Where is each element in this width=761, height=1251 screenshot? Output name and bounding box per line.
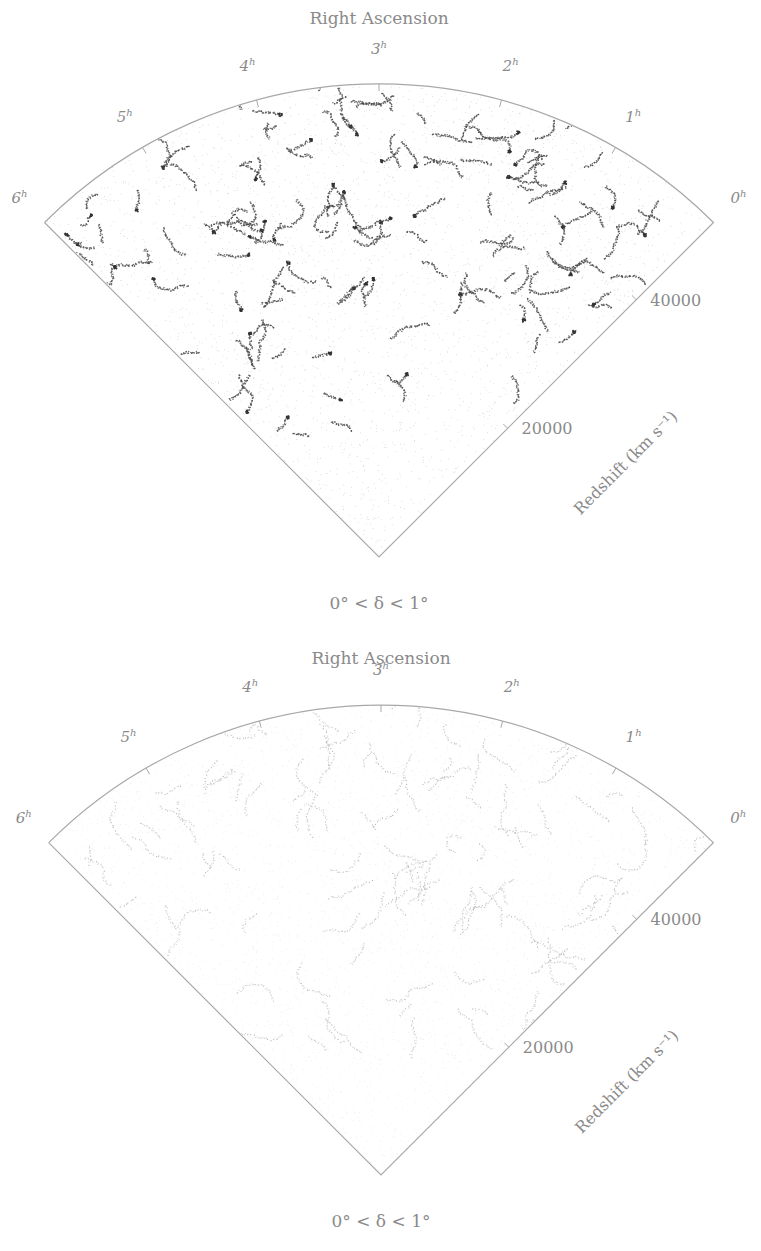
galaxy-point	[510, 873, 511, 874]
galaxy-point	[492, 115, 493, 116]
galaxy-point	[352, 857, 353, 858]
galaxy-point	[518, 290, 520, 292]
galaxy-point	[222, 853, 223, 854]
galaxy-point	[137, 926, 138, 927]
galaxy-point	[158, 901, 159, 902]
galaxy-point	[548, 177, 549, 178]
galaxy-point	[79, 243, 81, 245]
galaxy-point	[341, 793, 342, 794]
galaxy-point	[226, 776, 227, 777]
galaxy-point	[400, 1057, 401, 1058]
galaxy-point	[545, 292, 547, 294]
galaxy-point	[249, 344, 251, 346]
galaxy-point	[282, 981, 283, 982]
galaxy-point	[462, 426, 463, 427]
galaxy-point	[572, 270, 574, 272]
galaxy-point	[276, 356, 278, 358]
galaxy-point	[438, 804, 439, 805]
galaxy-point	[581, 857, 582, 858]
galaxy-point	[293, 328, 294, 329]
galaxy-point	[522, 295, 523, 296]
galaxy-point	[617, 787, 618, 788]
galaxy-point	[413, 1047, 414, 1048]
galaxy-point	[353, 875, 354, 876]
galaxy-point	[660, 816, 661, 817]
galaxy-point	[559, 197, 560, 198]
galaxy-point	[302, 249, 303, 250]
galaxy-point	[114, 812, 115, 813]
galaxy-point	[188, 351, 190, 353]
galaxy-point	[431, 1065, 432, 1066]
galaxy-point	[683, 843, 684, 844]
galaxy-point	[295, 825, 296, 826]
galaxy-point	[243, 413, 244, 414]
galaxy-point	[577, 272, 579, 274]
galaxy-point	[125, 888, 126, 889]
galaxy-point	[404, 357, 405, 358]
galaxy-point	[387, 315, 388, 316]
galaxy-point	[558, 751, 559, 752]
galaxy-point	[494, 106, 495, 107]
redshift-tick-label-20000: 20000	[523, 1038, 574, 1057]
galaxy-point	[514, 968, 515, 969]
galaxy-point	[444, 827, 445, 828]
galaxy-point	[598, 140, 599, 141]
galaxy-point	[490, 241, 492, 243]
galaxy-point	[183, 286, 185, 288]
galaxy-point	[340, 289, 341, 290]
galaxy-point	[527, 372, 528, 373]
galaxy-point	[540, 311, 541, 312]
galaxy-point	[328, 1107, 329, 1108]
galaxy-point	[124, 797, 125, 798]
galaxy-point	[545, 894, 546, 895]
galaxy-point	[461, 823, 462, 824]
galaxy-point	[270, 994, 271, 995]
galaxy-point	[570, 962, 571, 963]
galaxy-point	[419, 225, 420, 226]
galaxy-point	[391, 727, 392, 728]
galaxy-point	[415, 722, 416, 723]
galaxy-point	[278, 1037, 279, 1038]
galaxy-point	[461, 137, 463, 139]
galaxy-point	[494, 817, 495, 818]
galaxy-point	[377, 844, 378, 845]
galaxy-point	[487, 135, 488, 136]
galaxy-point	[583, 766, 584, 767]
galaxy-point	[330, 764, 331, 765]
galaxy-point	[458, 420, 459, 421]
galaxy-point	[437, 133, 439, 135]
galaxy-point	[109, 281, 110, 282]
galaxy-point	[264, 1045, 265, 1046]
galaxy-point	[241, 763, 242, 764]
galaxy-point	[490, 931, 491, 932]
galaxy-point	[397, 381, 399, 383]
galaxy-point	[220, 224, 222, 226]
galaxy-point	[375, 808, 376, 809]
galaxy-point	[438, 878, 439, 879]
galaxy-point	[346, 1132, 347, 1133]
galaxy-point	[460, 987, 461, 988]
galaxy-point	[452, 249, 453, 250]
galaxy-point	[478, 194, 479, 195]
galaxy-point	[575, 171, 576, 172]
galaxy-point	[278, 166, 279, 167]
galaxy-point	[191, 784, 192, 785]
galaxy-point	[398, 154, 399, 155]
galaxy-point	[378, 960, 379, 961]
galaxy-point	[519, 840, 520, 841]
galaxy-point	[503, 198, 504, 199]
galaxy-point	[472, 887, 473, 888]
galaxy-point	[610, 889, 611, 890]
galaxy-point	[254, 817, 255, 818]
galaxy-point	[419, 1037, 420, 1038]
galaxy-point	[332, 151, 333, 152]
galaxy-point	[345, 274, 346, 275]
galaxy-point	[551, 132, 553, 134]
galaxy-point	[572, 964, 573, 965]
galaxy-point	[641, 211, 643, 213]
galaxy-point	[254, 1041, 255, 1042]
galaxy-point	[223, 232, 224, 233]
galaxy-point	[496, 355, 497, 356]
galaxy-point	[413, 167, 415, 169]
galaxy-point	[520, 938, 521, 939]
